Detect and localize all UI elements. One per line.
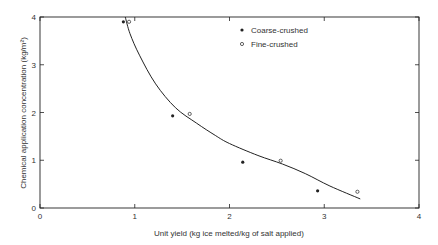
legend-label-coarse: Coarse-crushed [251, 26, 308, 35]
x-tick-label: 0 [38, 212, 43, 221]
y-tick-label: 2 [32, 109, 37, 118]
x-tick-label: 1 [133, 212, 138, 221]
coarse-crushed-point [122, 20, 125, 23]
y-tick-label: 0 [32, 204, 37, 213]
legend-marker-fine [240, 42, 243, 45]
fine-crushed-point [188, 112, 191, 115]
plot-frame [40, 17, 419, 208]
legend-label-fine: Fine-crushed [251, 40, 298, 49]
x-tick-label: 2 [227, 212, 232, 221]
plot-border [40, 17, 419, 208]
fine-crushed-point [127, 20, 130, 23]
y-axis-title: Chemical application concentration (kg/m… [19, 37, 28, 189]
y-axis-ticks: 01234 [32, 13, 419, 213]
data-points [122, 20, 359, 193]
chart: 01234 01234 Coarse-crushed Fine-crushed … [0, 0, 438, 245]
y-tick-label: 1 [32, 156, 37, 165]
x-tick-label: 3 [322, 212, 327, 221]
fine-crushed-point [356, 190, 359, 193]
coarse-crushed-point [316, 189, 319, 192]
fine-crushed-point [279, 159, 282, 162]
legend: Coarse-crushed Fine-crushed [240, 26, 308, 49]
x-tick-label: 4 [417, 212, 422, 221]
legend-marker-coarse [240, 28, 243, 31]
y-tick-label: 4 [32, 13, 37, 22]
x-axis-title: Unit yield (kg ice melted/kg of salt app… [154, 229, 304, 238]
coarse-crushed-point [171, 114, 174, 117]
x-axis-ticks: 01234 [38, 17, 422, 221]
coarse-crushed-point [241, 161, 244, 164]
y-tick-label: 3 [32, 61, 37, 70]
